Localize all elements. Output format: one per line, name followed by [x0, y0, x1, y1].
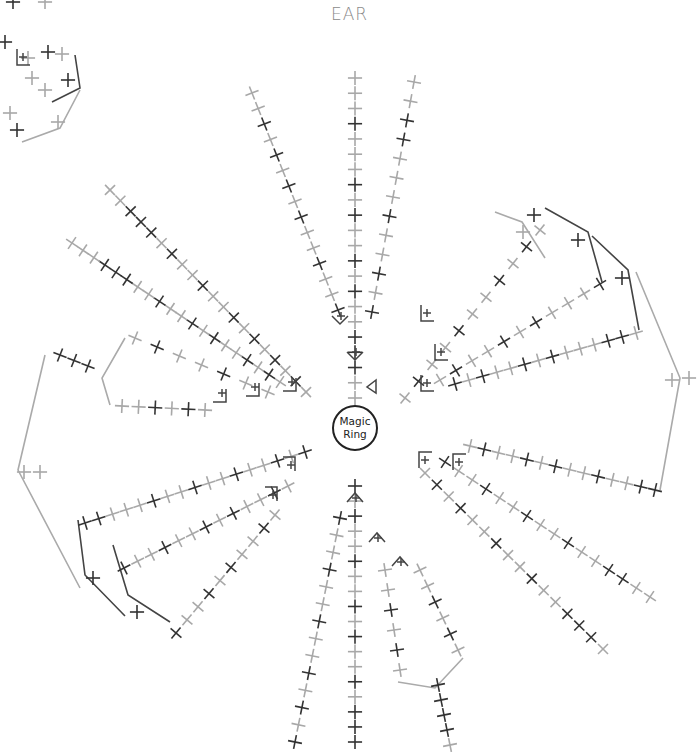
single-crochet-icon: [348, 509, 362, 523]
single-crochet-icon: [78, 516, 91, 529]
single-crochet-icon: [494, 275, 505, 286]
single-crochet-icon: [532, 354, 546, 368]
single-crochet-icon: [148, 401, 162, 415]
single-crochet-icon: [420, 468, 430, 478]
single-crochet-icon: [241, 354, 253, 366]
single-crochet-icon: [292, 718, 306, 732]
single-crochet-icon: [145, 548, 158, 561]
single-crochet-icon: [387, 623, 401, 637]
single-crochet-icon: [376, 248, 390, 262]
single-crochet-icon: [467, 515, 477, 525]
single-crochet-icon: [177, 259, 187, 269]
single-crochet-icon: [288, 195, 301, 208]
single-crochet-icon: [467, 308, 478, 319]
single-crochet-icon: [348, 735, 362, 749]
single-crochet-icon: [476, 369, 490, 383]
single-crochet-icon: [316, 597, 330, 611]
single-crochet-icon: [434, 374, 446, 386]
single-crochet-icon: [348, 300, 362, 314]
single-crochet-icon: [515, 562, 525, 572]
single-crochet-icon: [53, 348, 66, 361]
single-crochet-icon: [230, 467, 243, 480]
single-crochet-icon: [217, 367, 230, 380]
magic-ring: Magic Ring: [333, 406, 377, 450]
single-crochet-icon: [348, 705, 362, 719]
single-crochet-icon: [305, 649, 319, 663]
single-crochet-icon: [121, 274, 133, 286]
single-crochet-icon: [432, 480, 442, 490]
single-crochet-icon: [682, 371, 696, 385]
single-crochet-icon: [348, 524, 362, 538]
single-crochet-icon: [492, 446, 506, 460]
single-crochet-icon: [230, 347, 242, 359]
single-crochet-icon: [530, 316, 542, 328]
single-crochet-icon: [181, 402, 195, 416]
single-crochet-icon: [348, 614, 362, 628]
single-crochet-icon: [549, 459, 563, 473]
single-crochet-icon: [615, 330, 629, 344]
round-join-line: [102, 338, 125, 405]
single-crochet-icon: [384, 603, 398, 617]
single-crochet-icon: [99, 259, 111, 271]
round-join-line: [113, 545, 170, 622]
single-crochet-icon: [176, 310, 188, 322]
single-crochet-icon: [261, 385, 274, 398]
single-crochet-icon: [348, 660, 362, 674]
single-crochet-icon: [444, 628, 457, 641]
single-crochet-icon: [25, 71, 39, 85]
single-crochet-icon: [574, 621, 584, 631]
single-crochet-icon: [270, 510, 281, 521]
single-crochet-icon: [571, 233, 585, 247]
single-crochet-icon: [288, 735, 302, 749]
single-crochet-icon: [617, 573, 629, 585]
single-crochet-icon: [453, 465, 465, 477]
single-crochet-icon: [348, 101, 362, 115]
single-crochet-icon: [128, 331, 141, 344]
single-crochet-icon: [92, 512, 105, 525]
single-crochet-icon: [326, 546, 340, 560]
single-crochet-icon: [348, 269, 362, 283]
single-crochet-icon: [61, 73, 75, 87]
single-crochet-icon: [348, 86, 362, 100]
single-crochet-icon: [562, 609, 572, 619]
single-crochet-icon: [390, 643, 404, 657]
single-crochet-icon: [51, 115, 65, 129]
single-crochet-icon: [348, 239, 362, 253]
single-crochet-icon: [578, 288, 590, 300]
single-crochet-icon: [518, 358, 532, 372]
single-crochet-icon: [562, 537, 574, 549]
single-crochet-icon: [386, 190, 400, 204]
single-crochet-icon: [546, 307, 558, 319]
single-crochet-icon: [219, 340, 231, 352]
single-crochet-icon: [282, 179, 295, 192]
single-crochet-icon: [257, 459, 270, 472]
single-crochet-icon: [175, 485, 188, 498]
single-crochet-icon: [348, 223, 362, 237]
single-crochet-icon: [521, 241, 532, 252]
single-crochet-icon: [348, 720, 362, 734]
single-crochet-icon: [452, 644, 465, 657]
single-crochet-icon: [562, 297, 574, 309]
single-crochet-icon: [81, 359, 94, 372]
single-crochet-icon: [490, 365, 504, 379]
single-crochet-icon: [436, 612, 449, 625]
single-crochet-icon: [348, 284, 362, 298]
single-crochet-icon: [271, 454, 284, 467]
single-crochet-icon: [187, 270, 197, 280]
decrease-icon: [369, 533, 385, 542]
single-crochet-icon: [348, 569, 362, 583]
single-crochet-icon: [448, 377, 462, 391]
single-crochet-icon: [576, 546, 588, 558]
single-crochet-icon: [154, 296, 166, 308]
single-crochet-icon: [603, 564, 615, 576]
single-crochet-icon: [429, 596, 442, 609]
single-crochet-icon: [307, 241, 320, 254]
single-crochet-icon: [629, 326, 643, 340]
single-crochet-icon: [507, 501, 519, 513]
single-crochet-icon: [248, 536, 259, 547]
single-crochet-icon: [534, 456, 548, 470]
single-crochet-icon: [202, 476, 215, 489]
single-crochet-icon: [535, 519, 547, 531]
single-crochet-icon: [348, 675, 362, 689]
single-crochet-icon: [182, 614, 193, 625]
